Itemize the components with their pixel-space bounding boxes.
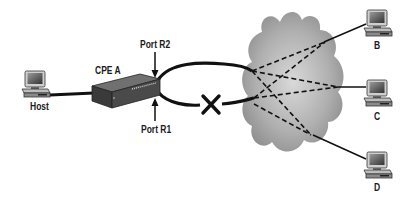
cpe-router[interactable] <box>92 74 160 108</box>
r2-link <box>158 63 252 80</box>
network-cloud <box>242 12 343 152</box>
host-label: Host <box>30 101 49 112</box>
port-r1-arrow <box>152 98 159 121</box>
host-computer-icon[interactable] <box>22 71 50 97</box>
computer-c-icon[interactable] <box>364 80 392 106</box>
cpe-a-label: CPE A <box>95 65 121 76</box>
link-failure-x-icon <box>203 96 219 113</box>
port-r2-arrow <box>152 52 159 78</box>
b-label: B <box>374 40 380 51</box>
network-diagram <box>0 0 410 201</box>
port-r1-label: Port R1 <box>141 124 171 135</box>
port-r2-label: Port R2 <box>140 39 170 50</box>
computer-d-icon[interactable] <box>364 152 392 178</box>
c-label: C <box>374 111 380 122</box>
computer-b-icon[interactable] <box>364 10 392 36</box>
d-label: D <box>374 182 380 193</box>
host-cpe-link <box>50 93 94 95</box>
